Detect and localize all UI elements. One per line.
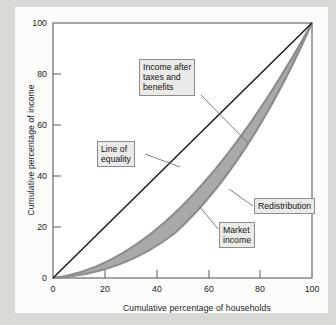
x-axis-title: Cumulative percentage of households — [123, 303, 271, 313]
figure-container: 100 80 60 40 20 0 0 20 40 60 80 100 Cumu… — [0, 0, 336, 325]
x-tick-label-80: 80 — [247, 284, 273, 294]
callout-income-after-taxes: Income after taxes and benefits — [139, 59, 195, 96]
callout-redistribution: Redistribution — [254, 198, 315, 214]
callout-market-income: Market income — [219, 222, 255, 248]
x-tick-label-100: 100 — [299, 284, 325, 294]
x-tick-label-40: 40 — [144, 284, 170, 294]
x-tick-label-20: 20 — [92, 284, 118, 294]
x-tick-label-60: 60 — [196, 284, 222, 294]
lorenz-curve-plot — [15, 7, 328, 313]
chart-card: 100 80 60 40 20 0 0 20 40 60 80 100 Cumu… — [15, 7, 328, 313]
x-tick-label-0: 0 — [40, 284, 66, 294]
y-tick-label-100: 100 — [21, 18, 47, 28]
y-axis-title: Cumulative percentage of income — [26, 60, 36, 240]
callout-line-of-equality: Line of equality — [97, 141, 135, 167]
y-tick-label-0: 0 — [21, 273, 47, 283]
